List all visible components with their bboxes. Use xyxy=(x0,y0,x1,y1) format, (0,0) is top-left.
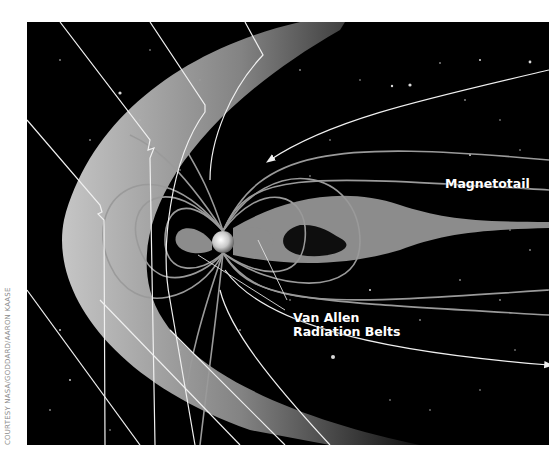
van-allen-label-line1: Van Allen xyxy=(293,311,401,325)
magnetosphere-diagram: Magnetotail Van Allen Radiation Belts xyxy=(27,22,549,445)
magnetosphere-illustration xyxy=(27,22,549,445)
van-allen-label-line2: Radiation Belts xyxy=(293,325,401,339)
radiation-belt-right xyxy=(234,228,273,254)
magnetotail-region xyxy=(233,196,549,263)
earth xyxy=(212,231,234,253)
magnetotail-label: Magnetotail xyxy=(445,177,530,191)
radiation-belt-left xyxy=(176,228,212,253)
image-credit: COURTESY NASA/GODDARD/AARON KAASE xyxy=(4,287,12,445)
van-allen-label: Van Allen Radiation Belts xyxy=(293,311,401,339)
